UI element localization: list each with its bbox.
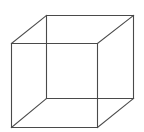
- necker-cube-figure: [0, 0, 144, 132]
- cube-edge-front-bottom-left-to-back-bottom-left: [12, 99, 47, 128]
- cube-wireframe: [0, 0, 144, 132]
- cube-edge-front-top-right-to-back-top-right: [98, 16, 134, 44]
- cube-edge-front-top-left-to-back-top-left: [12, 16, 47, 44]
- cube-edge-front-bottom-right-to-back-bottom-right: [98, 99, 134, 128]
